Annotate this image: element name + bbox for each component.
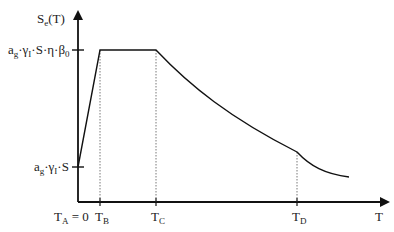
x-tick-label-TA: TA = 0 [54,209,89,226]
spectrum-curve [78,50,349,177]
y-axis-label: Se(T) [37,11,65,28]
y-tick-label-start: ag·γI·S [34,159,69,176]
x-tick-label-TC: TC [151,209,165,226]
y-tick-label-plateau: ag·γI·S·η·β0 [8,42,70,59]
x-tick-label-TD: TD [292,209,307,226]
x-axis-label: T [375,209,383,224]
x-tick-label-TB: TB [95,209,109,226]
response-spectrum-diagram: Se(T) ag·γI·S·η·β0 ag·γI·S TA = 0 TB TC … [0,0,394,232]
